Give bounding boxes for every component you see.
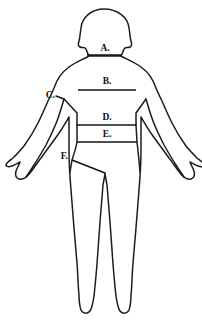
measurement-label-B: B. — [103, 76, 112, 86]
body-figure-svg: A. B. C. D. E. F. — [0, 0, 202, 323]
measurement-label-C: C. — [46, 90, 55, 100]
measurement-label-F: F. — [61, 151, 68, 161]
measurement-label-E: E. — [103, 129, 112, 139]
torso-arms-legs-outline — [6, 56, 202, 313]
measurement-label-A: A. — [100, 43, 109, 53]
measurement-label-D: D. — [102, 112, 111, 122]
body-measurement-diagram: A. B. C. D. E. F. — [0, 0, 202, 323]
